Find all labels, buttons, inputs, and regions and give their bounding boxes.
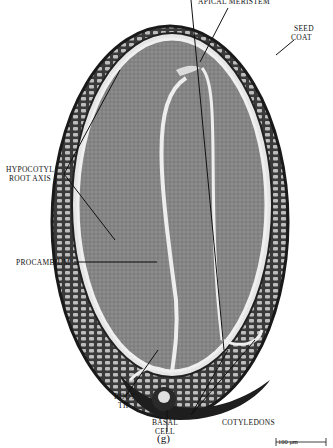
label-cotyledons: COTYLEDONS xyxy=(222,418,275,427)
label-root-tip-line2: TIP xyxy=(118,401,130,410)
embryo-micrograph xyxy=(0,0,333,448)
label-root-tip-line1: ROOT xyxy=(114,392,136,401)
label-basal-cell-line1: BASAL xyxy=(152,418,178,427)
label-hypocotyl-line1: HYPOCOTYL xyxy=(6,165,54,174)
label-apical-meristem: APICAL MERISTEM xyxy=(198,0,270,6)
label-seed-coat-line1: SEED xyxy=(294,24,314,33)
label-procambium: PROCAMBIUM xyxy=(16,258,70,267)
label-seed-coat-line2: COAT xyxy=(291,33,312,42)
panel-label: (g) xyxy=(157,432,170,444)
label-hypocotyl-line2: ROOT AXIS xyxy=(9,174,51,183)
scale-bar-label: 100 μm xyxy=(278,438,298,445)
